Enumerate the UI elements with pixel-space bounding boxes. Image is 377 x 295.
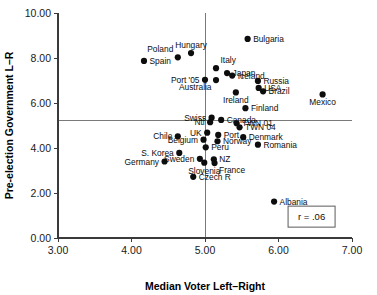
- data-point: [242, 105, 248, 111]
- data-point-label: Belgium: [168, 135, 198, 145]
- x-tick-label: 5.00: [195, 244, 216, 256]
- y-axis-title: Pre-election Government L–R: [3, 51, 15, 199]
- data-point: [161, 158, 167, 164]
- data-point-label: NZ: [219, 154, 230, 164]
- data-point: [255, 142, 261, 148]
- data-point-label: Finland: [251, 103, 279, 113]
- annotation-text: r = .06: [298, 211, 325, 222]
- x-axis-title: Median Voter Left–Right: [145, 280, 265, 292]
- y-tick-label: 2.00: [31, 187, 52, 199]
- x-tick-label: 4.00: [121, 244, 142, 256]
- data-point: [175, 54, 181, 60]
- data-point: [215, 132, 221, 138]
- data-point: [207, 119, 213, 125]
- data-point: [213, 77, 219, 83]
- x-tick-label: 6.00: [268, 244, 289, 256]
- scatter-chart: 0.002.004.006.008.0010.003.004.005.006.0…: [0, 0, 377, 295]
- data-point: [255, 78, 261, 84]
- y-tick-label: 0.00: [31, 232, 52, 244]
- data-point-label: Romania: [263, 140, 297, 150]
- y-tick-label: 8.00: [31, 52, 52, 64]
- data-point: [204, 130, 210, 136]
- x-tick-label: 3.00: [48, 244, 69, 256]
- data-point: [229, 72, 235, 78]
- data-point: [203, 144, 209, 150]
- data-point-label: Italy: [221, 55, 237, 65]
- data-point-label: Ireland: [223, 95, 249, 105]
- data-point: [245, 36, 251, 42]
- data-point-label: Iceland: [238, 71, 265, 81]
- data-point: [260, 88, 266, 94]
- y-tick-label: 4.00: [31, 142, 52, 154]
- data-point-label: Poland: [147, 44, 173, 54]
- data-point: [271, 198, 277, 204]
- data-point-label: Bulgaria: [253, 34, 284, 44]
- data-point-label: Mexico: [309, 97, 336, 107]
- data-point-label: Ntl: [194, 117, 204, 127]
- data-point: [190, 174, 196, 180]
- data-point-label: Germany: [125, 157, 160, 167]
- x-tick-label: 7.00: [342, 244, 363, 256]
- data-point: [141, 58, 147, 64]
- data-point-label: Peru: [211, 142, 229, 152]
- data-point-label: Sweden: [164, 154, 195, 164]
- data-point: [218, 117, 224, 123]
- y-tick-label: 6.00: [31, 97, 52, 109]
- data-point-label: TWN 04: [245, 122, 276, 132]
- data-point-label: Albania: [280, 197, 308, 207]
- data-point: [211, 160, 217, 166]
- plot-canvas: 0.002.004.006.008.0010.003.004.005.006.0…: [0, 0, 377, 295]
- data-point-label: Australia: [179, 82, 212, 92]
- data-point-label: Hungary: [175, 40, 207, 50]
- data-point: [200, 137, 206, 143]
- data-point-label: Czech R: [199, 172, 231, 182]
- data-point-label: Spain: [149, 56, 171, 66]
- data-point: [213, 65, 219, 71]
- data-point: [188, 50, 194, 56]
- data-point-label: Brazil: [269, 86, 290, 96]
- y-tick-label: 10.00: [25, 7, 51, 19]
